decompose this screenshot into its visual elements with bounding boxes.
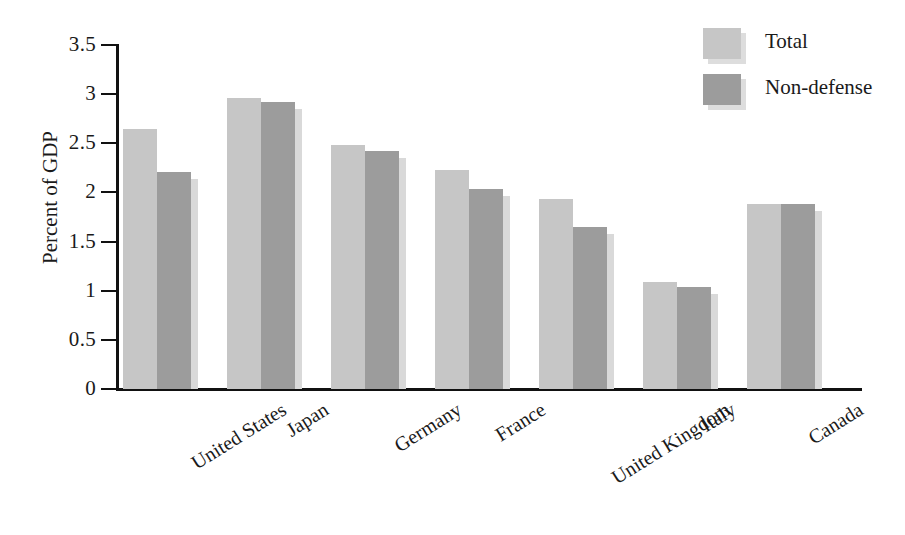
legend-swatch-fill xyxy=(703,28,741,59)
y-axis-tick-label: 2 xyxy=(0,181,96,202)
y-axis-tick-label-text: 0 xyxy=(0,378,96,399)
bar-canada-non-defense xyxy=(781,204,815,389)
y-axis-tick-label: 0.5 xyxy=(0,329,96,350)
bar-france-non-defense xyxy=(469,189,503,389)
bar-united-kingdom-total xyxy=(539,199,573,389)
bar-italy-non-defense xyxy=(677,287,711,389)
bar-japan-total xyxy=(227,98,261,389)
y-axis-tick-label-text: 3.5 xyxy=(0,34,96,55)
bar-italy-total xyxy=(643,282,677,389)
bar-canada-total xyxy=(747,204,781,389)
x-axis-label-france: France xyxy=(491,398,549,446)
y-axis-tick-label-text: 1.5 xyxy=(0,231,96,252)
legend-item-total: Total xyxy=(703,26,903,72)
bar-germany-non-defense xyxy=(365,151,399,389)
y-axis-tick-label-text: 2.5 xyxy=(0,132,96,153)
y-axis-tick-label: 1.5 xyxy=(0,231,96,252)
bar-chart: Percent of GDP 00.511.522.533.5 United S… xyxy=(0,0,905,535)
y-axis-tick-label: 1 xyxy=(0,280,96,301)
y-axis-tick xyxy=(101,388,117,390)
y-axis-tick-label: 2.5 xyxy=(0,132,96,153)
bar-united-states-total xyxy=(123,129,157,389)
legend-item-non-defense: Non-defense xyxy=(703,72,903,118)
y-axis-tick-label: 3 xyxy=(0,83,96,104)
y-axis-tick-label: 3.5 xyxy=(0,34,96,55)
bar-united-kingdom-non-defense xyxy=(573,227,607,389)
chart-legend: Total Non-defense xyxy=(703,26,903,118)
y-axis-tick xyxy=(101,290,117,292)
y-axis-tick xyxy=(101,191,117,193)
legend-label-total: Total xyxy=(765,29,808,54)
x-axis-label-japan: Japan xyxy=(282,398,333,442)
y-axis-tick-label: 0 xyxy=(0,378,96,399)
legend-swatch-fill xyxy=(703,74,741,105)
legend-swatch-total xyxy=(703,28,745,62)
bar-united-states-non-defense xyxy=(157,172,191,389)
x-axis-label-canada: Canada xyxy=(804,398,867,449)
y-axis-tick xyxy=(101,93,117,95)
y-axis-tick xyxy=(101,44,117,46)
y-axis-tick xyxy=(101,142,117,144)
legend-swatch-non-defense xyxy=(703,74,745,108)
y-axis-tick-label-text: 1 xyxy=(0,280,96,301)
bar-japan-non-defense xyxy=(261,102,295,389)
y-axis-tick-label-text: 3 xyxy=(0,83,96,104)
y-axis-tick xyxy=(101,339,117,341)
x-axis-label-germany: Germany xyxy=(390,398,465,457)
y-axis-tick xyxy=(101,241,117,243)
bar-germany-total xyxy=(331,145,365,389)
legend-label-non-defense: Non-defense xyxy=(765,75,872,100)
x-axis-label-united-states: United States xyxy=(187,398,290,474)
bar-france-total xyxy=(435,170,469,389)
y-axis-tick-label-text: 2 xyxy=(0,181,96,202)
y-axis-tick-label-text: 0.5 xyxy=(0,329,96,350)
